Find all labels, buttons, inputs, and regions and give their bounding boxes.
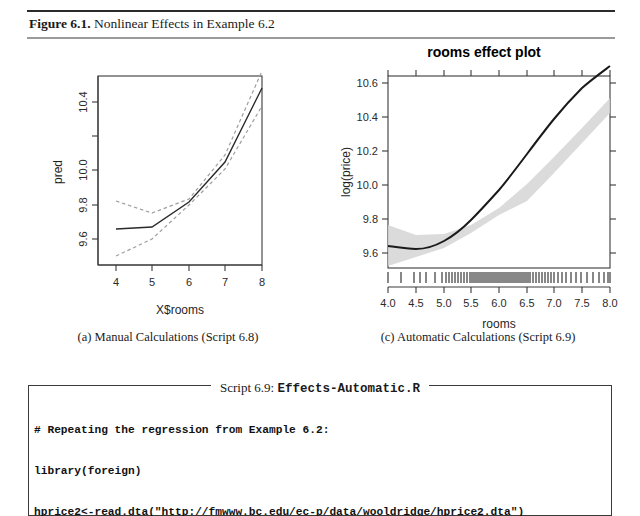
script-filename: Effects-Automatic.R <box>277 382 420 396</box>
y-axis-title: log(price) <box>339 147 353 197</box>
svg-text:7.5: 7.5 <box>574 297 589 309</box>
svg-text:10.2: 10.2 <box>357 145 378 157</box>
y-axis-ticks-right <box>610 83 616 253</box>
x-axis-tick-labels: 4.0 4.5 5.0 5.5 6.0 6.5 7.0 7.5 8.0 <box>380 297 617 309</box>
y-axis-ticks <box>382 83 388 253</box>
script-label: Script 6.9: <box>220 380 274 395</box>
figure-rule-bottom <box>27 37 615 39</box>
x-axis-ticks <box>98 265 262 271</box>
figure-title: Nonlinear Effects in Example 6.2 <box>94 16 275 31</box>
code-line: # Repeating the regression from Example … <box>34 424 606 438</box>
manual-calculations-chart: 9.6 9.8 10.0 10.4 4 5 6 7 8 X$rooms pred <box>18 52 318 352</box>
svg-text:8: 8 <box>259 276 265 288</box>
chart-title: rooms effect plot <box>427 44 541 60</box>
code-line: library(foreign) <box>34 465 606 479</box>
svg-text:4: 4 <box>113 276 119 288</box>
svg-text:9.8: 9.8 <box>77 197 89 212</box>
confidence-band <box>388 98 610 266</box>
x-axis-title: X$rooms <box>156 303 204 317</box>
figure-number: Figure 6.1. <box>29 16 91 31</box>
lower-confidence-dashed <box>116 106 262 256</box>
svg-text:5: 5 <box>149 276 155 288</box>
svg-text:10.0: 10.0 <box>357 179 378 191</box>
svg-text:6.5: 6.5 <box>519 297 534 309</box>
manual-panel-caption: (a) Manual Calculations (Script 6.8) <box>18 330 318 345</box>
effect-fit-line <box>388 66 610 249</box>
x-axis-tick-labels: 4 5 6 7 8 <box>113 276 265 288</box>
svg-text:10.0: 10.0 <box>77 159 89 180</box>
script-listing: Script 6.9: Effects-Automatic.R # Repeat… <box>28 378 612 516</box>
y-axis-ticks <box>92 76 98 265</box>
svg-text:6.0: 6.0 <box>491 297 506 309</box>
script-title-wrap: Script 6.9: Effects-Automatic.R <box>28 378 612 397</box>
code-line: hprice2<-read.dta("http://fmwww.bc.edu/e… <box>34 506 606 516</box>
automatic-panel-caption: (c) Automatic Calculations (Script 6.9) <box>322 330 634 345</box>
svg-text:9.6: 9.6 <box>77 231 89 246</box>
svg-text:9.6: 9.6 <box>363 247 378 259</box>
script-title: Script 6.9: Effects-Automatic.R <box>211 380 429 397</box>
svg-text:9.8: 9.8 <box>363 213 378 225</box>
svg-text:8.0: 8.0 <box>602 297 617 309</box>
y-axis-title: pred <box>51 160 65 184</box>
svg-text:10.6: 10.6 <box>357 77 378 89</box>
rooms-effect-chart: rooms effect plot 9.6 9.8 10.0 10.2 10.4… <box>322 40 634 352</box>
x-axis-ticks-bottom <box>388 287 610 293</box>
rug-plot <box>388 272 610 283</box>
y-axis-tick-labels: 9.6 9.8 10.0 10.2 10.4 10.6 <box>357 77 378 259</box>
figure-caption: Figure 6.1. Nonlinear Effects in Example… <box>27 12 615 35</box>
svg-text:10.4: 10.4 <box>357 111 378 123</box>
plot-panel-automatic: rooms effect plot 9.6 9.8 10.0 10.2 10.4… <box>322 40 634 352</box>
predicted-line <box>116 88 262 229</box>
svg-text:6: 6 <box>186 276 192 288</box>
figure-header: Figure 6.1. Nonlinear Effects in Example… <box>27 10 615 39</box>
svg-text:5.0: 5.0 <box>436 297 451 309</box>
svg-text:7: 7 <box>222 276 228 288</box>
x-axis-ticks-top <box>388 70 610 76</box>
svg-text:7.0: 7.0 <box>546 297 561 309</box>
y-axis-tick-labels: 9.6 9.8 10.0 10.4 <box>77 91 89 246</box>
x-axis-title: rooms <box>482 317 515 331</box>
svg-text:4.0: 4.0 <box>380 297 395 309</box>
svg-text:4.5: 4.5 <box>408 297 423 309</box>
plot-box <box>98 76 262 265</box>
upper-confidence-dashed <box>116 71 262 213</box>
plot-panel-manual: 9.6 9.8 10.0 10.4 4 5 6 7 8 X$rooms pred <box>18 52 318 352</box>
script-code: # Repeating the regression from Example … <box>34 397 606 516</box>
svg-text:10.4: 10.4 <box>77 91 89 112</box>
svg-text:5.5: 5.5 <box>463 297 478 309</box>
